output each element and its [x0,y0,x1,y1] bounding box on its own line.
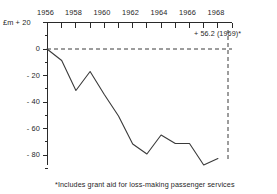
y-tick-label-minus-20: - 20 [12,71,40,80]
y-tick-label-minus-40: - 40 [12,97,40,106]
peak-value-annotation: + 56.2 (1969)* [194,29,241,38]
x-tick-label-1960: 1960 [94,8,111,17]
x-tick-label-1968: 1968 [208,8,225,17]
x-tick-label-1966: 1966 [179,8,196,17]
chart-container: £m + 20 0 - 20 - 40 - 60 - 80 1956 1958 … [0,0,277,194]
x-tick-label-1958: 1958 [65,8,82,17]
y-tick-label-minus-60: - 60 [12,124,40,133]
y-axis-unit-label: £m + 20 [3,18,31,27]
x-tick-label-1962: 1962 [122,8,139,17]
x-tick-label-1964: 1964 [151,8,168,17]
data-series-line [47,49,218,165]
y-tick-label-minus-80: - 80 [12,150,40,159]
y-tick-label-0: 0 [16,44,40,53]
x-tick-label-1956: 1956 [37,8,54,17]
x-axis-ticks [48,23,233,28]
chart-footnote: *Includes grant aid for loss-making pass… [55,180,235,189]
y-axis-ticks [43,23,48,169]
